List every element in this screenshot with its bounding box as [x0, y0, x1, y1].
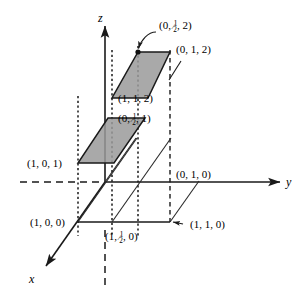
leader-line-0-1-2	[169, 61, 181, 80]
label-point-0-1-0: (0, 1, 0)	[176, 168, 211, 181]
z-axis-label: z	[97, 11, 103, 25]
leader-arrow-0-half-2	[139, 32, 157, 49]
diagram-canvas: z y x (0, 1∕2, 2) (0, 1, 2) (1, 1, 2) (0…	[0, 0, 303, 296]
label-point-1-0-1: (1, 0, 1)	[27, 157, 62, 170]
y-axis-label: y	[285, 175, 292, 189]
coordinate-diagram: z y x (0, 1∕2, 2) (0, 1, 2) (1, 1, 2) (0…	[0, 0, 303, 296]
x-axis-label: x	[28, 272, 35, 286]
label-point-1-0-0: (1, 0, 0)	[30, 216, 65, 229]
label-point-1-1-0: (1, 1, 0)	[190, 218, 225, 231]
label-point-1-1-2: (1, 1, 2)	[118, 92, 153, 105]
vertex-dot-0-half-2	[135, 49, 140, 54]
label-point-0-half-2: (0, 1∕2, 2)	[159, 19, 192, 34]
label-point-0-1-2: (0, 1, 2)	[176, 43, 211, 56]
leader-arrow-1-1-0	[173, 222, 183, 224]
x-edge-from-1-1-0	[170, 181, 199, 222]
label-point-1-half-0: (1, 1∕2, 0)	[105, 230, 138, 245]
